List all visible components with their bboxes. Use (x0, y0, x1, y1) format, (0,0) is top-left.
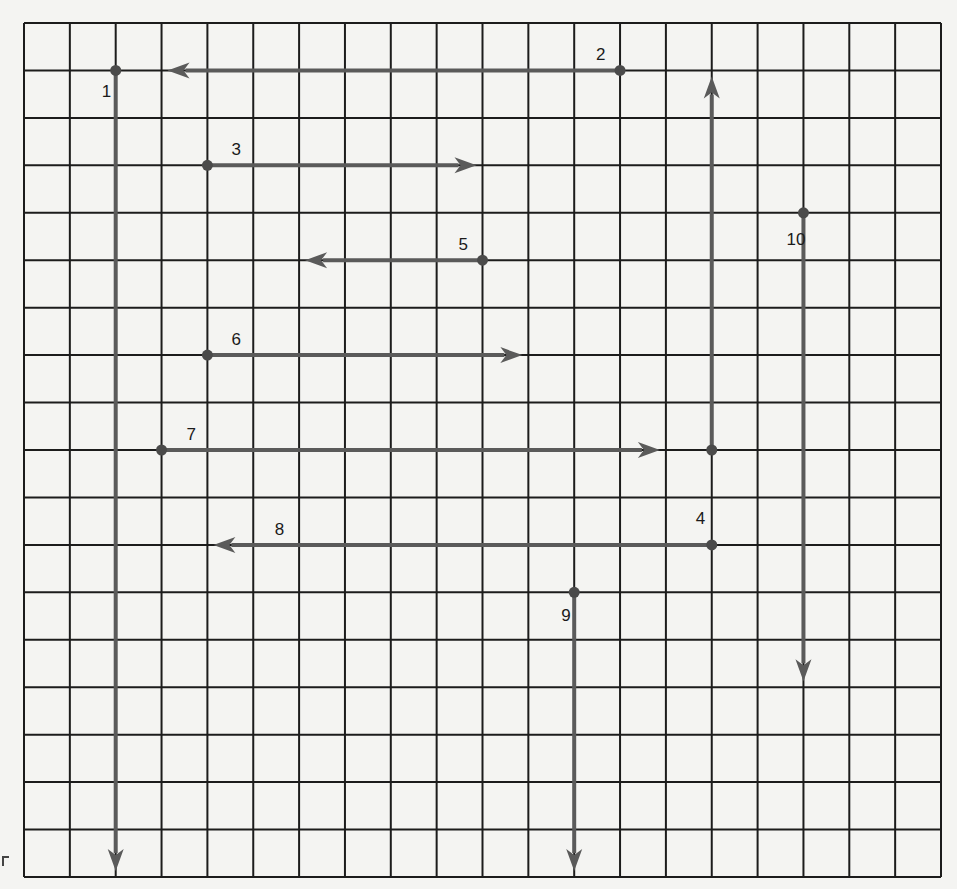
origin-dot (110, 65, 121, 76)
paper-background (0, 0, 957, 889)
vector-label: 10 (786, 230, 805, 249)
origin-dot (156, 445, 167, 456)
origin-dot (569, 587, 580, 598)
origin-dot (615, 65, 626, 76)
vector-label: 8 (275, 520, 284, 539)
origin-dot (798, 207, 809, 218)
vector-label: 1 (102, 82, 111, 101)
vector-label: 2 (596, 45, 605, 64)
vector-label: 6 (231, 330, 240, 349)
vector-label: 3 (231, 140, 240, 159)
origin-dot (706, 445, 717, 456)
vector-grid-diagram: 12345678910 (0, 0, 957, 889)
vector-label: 9 (561, 606, 570, 625)
vector-label: 4 (696, 509, 705, 528)
vector-label: 7 (187, 425, 196, 444)
origin-dot (202, 160, 213, 171)
vector-label: 5 (459, 235, 468, 254)
origin-dot (477, 255, 488, 266)
origin-dot (706, 539, 717, 550)
origin-dot (202, 350, 213, 361)
